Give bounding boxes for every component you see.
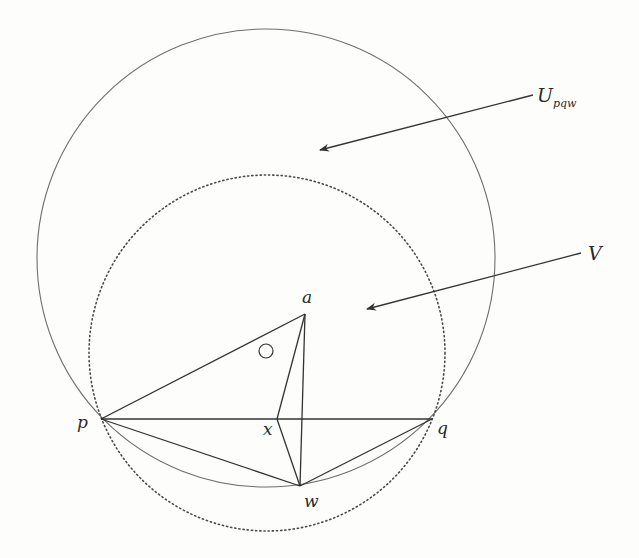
label-p: p	[77, 412, 88, 432]
label-u-main: U	[537, 84, 554, 106]
label-q: q	[437, 418, 448, 438]
label-v: V	[588, 242, 604, 264]
arrow-to-u-pqw	[320, 95, 533, 150]
segment-w-q	[300, 419, 432, 486]
label-a: a	[302, 287, 312, 307]
label-u-pqw: Upqw	[537, 84, 577, 110]
label-x: x	[263, 419, 273, 439]
label-u-subscript: pqw	[553, 97, 577, 110]
inner-circle-v	[89, 175, 445, 531]
arrow-to-v	[367, 253, 581, 309]
geometry-diagram: a p x q w Upqw V	[0, 0, 639, 558]
segment-a-w	[300, 314, 305, 486]
segment-x-w	[277, 419, 300, 486]
segments	[101, 314, 432, 486]
segment-a-x	[277, 314, 305, 419]
segment-p-a	[101, 314, 305, 419]
small-circle-marker	[259, 344, 273, 358]
label-w: w	[304, 491, 319, 511]
